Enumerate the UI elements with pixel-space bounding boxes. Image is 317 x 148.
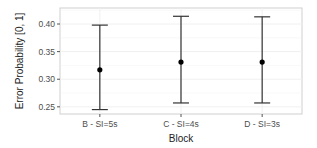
x-tick-label: D - SI=3s (244, 119, 280, 129)
y-tick-label: 0.25 (38, 102, 55, 112)
x-axis-title: Block (169, 133, 194, 144)
y-axis: 0.250.300.350.40 (38, 19, 60, 112)
data-point (97, 67, 102, 72)
y-axis-title: Error Probability [0, 1] (14, 12, 25, 109)
y-tick-label: 0.30 (38, 74, 55, 84)
x-axis: B - SI=5sC - SI=4sD - SI=3s (82, 114, 280, 129)
y-tick-label: 0.35 (38, 47, 55, 57)
y-tick-label: 0.40 (38, 19, 55, 29)
data-point (178, 60, 183, 65)
x-tick-label: B - SI=5s (82, 119, 117, 129)
x-tick-label: C - SI=4s (163, 119, 199, 129)
data-point (260, 60, 265, 65)
error-probability-chart: 0.250.300.350.40 B - SI=5sC - SI=4sD - S… (0, 0, 317, 148)
